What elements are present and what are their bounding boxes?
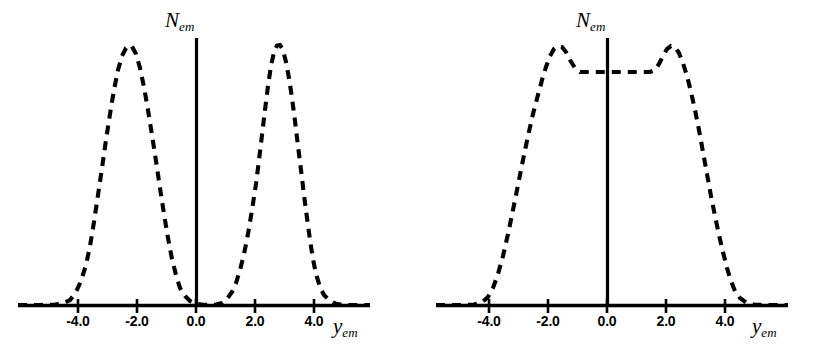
y-axis-label-left: Nem: [165, 10, 195, 33]
x-tick-label--4.0: -4.0: [477, 313, 500, 329]
x-tick-label-2.0: 2.0: [246, 313, 265, 329]
curve-double-peak: [18, 45, 370, 305]
x-tick-label-2.0: 2.0: [657, 313, 676, 329]
x-tick-label-4.0: 4.0: [305, 313, 324, 329]
axes-left: [18, 38, 370, 313]
x-tick-label--2.0: -2.0: [536, 313, 559, 329]
x-axis-label-right: yem: [752, 316, 777, 339]
y-axis-label-right: Nem: [576, 10, 606, 33]
curve-plateau: [436, 46, 788, 305]
x-axis-label-left: yem: [333, 316, 358, 339]
axes-right: [436, 38, 788, 313]
plot-panel-right: Nem yem -4.0 -2.0 0.0 2.0 4.0: [408, 0, 815, 354]
figure-two-panel-plot: Nem yem -4.0 -2.0 0.0 2.0 4.0 Nem: [0, 0, 815, 354]
x-tick-label--4.0: -4.0: [66, 313, 89, 329]
x-tick-label-0.0: 0.0: [187, 313, 206, 329]
x-tick-label--2.0: -2.0: [125, 313, 148, 329]
x-tick-label-0.0: 0.0: [598, 313, 617, 329]
plot-canvas-right: [408, 0, 815, 354]
x-tick-label-4.0: 4.0: [716, 313, 735, 329]
plot-canvas-left: [0, 0, 407, 354]
plot-panel-left: Nem yem -4.0 -2.0 0.0 2.0 4.0: [0, 0, 407, 354]
